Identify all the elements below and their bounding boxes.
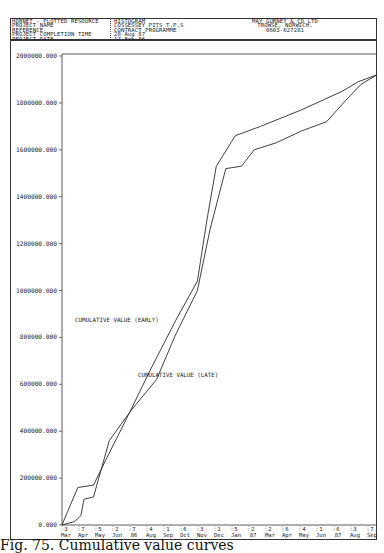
y-tick-label: 1200000.000 <box>16 240 57 247</box>
y-tick-label: 2000000.000 <box>16 52 57 59</box>
y-tick-label: 400000.000 <box>20 427 58 434</box>
x-tick-month: 87 <box>335 532 342 538</box>
y-tick-label: 1400000.000 <box>16 193 57 200</box>
x-tick-month: Aug <box>350 532 360 539</box>
y-tick-label: 1000000.000 <box>16 287 57 294</box>
y-tick-label: 600000.000 <box>20 380 58 387</box>
x-tick-month: Jun <box>316 532 326 538</box>
y-tick-label: 1800000.000 <box>16 99 57 106</box>
late-curve <box>62 75 377 525</box>
early-curve-label: CUMULATIVE VALUE (EARLY) <box>75 317 159 323</box>
x-tick-month: Mar <box>265 532 276 538</box>
y-tick-label: 200000.000 <box>20 474 58 481</box>
early-curve <box>62 75 377 525</box>
y-tick-label: 800000.000 <box>20 333 58 340</box>
x-tick-month: Apr <box>282 532 293 539</box>
y-tick-label: 1600000.000 <box>16 146 57 153</box>
x-tick-month: May <box>299 532 310 539</box>
figure-caption: Fig. 75. Cumulative value curves <box>0 538 234 552</box>
x-tick-month: 87 <box>250 532 257 538</box>
y-tick-label: 0.000 <box>38 521 57 528</box>
x-tick-month: Sep <box>367 532 378 539</box>
late-curve-label: CUMULATIVE VALUE (LATE) <box>138 372 218 378</box>
